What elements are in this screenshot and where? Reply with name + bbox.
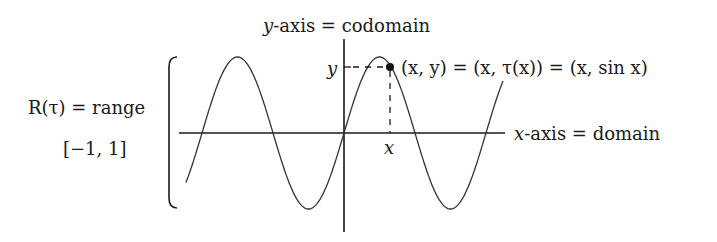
range-bracket (169, 57, 177, 208)
x-axis-text: -axis = domain (524, 123, 660, 144)
y-axis-label: y-axis = codomain (263, 17, 430, 35)
x-axis-label: x-axis = domain (514, 125, 660, 143)
highlighted-point-dot (386, 63, 394, 71)
range-interval-label: [−1, 1] (63, 140, 126, 158)
x-axis-var: x (514, 123, 524, 144)
y-axis-var: y (263, 15, 273, 36)
sine-function-diagram: y-axis = codomain y (x, y) = (x, τ(x)) =… (0, 0, 717, 242)
point-label: (x, y) = (x, τ(x)) = (x, sin x) (401, 59, 648, 77)
x-tick-label: x (384, 139, 394, 157)
sine-plot (0, 0, 717, 242)
y-axis-text: -axis = codomain (273, 15, 430, 36)
y-tick-label: y (327, 60, 337, 78)
range-label: R(τ) = range (28, 99, 145, 117)
